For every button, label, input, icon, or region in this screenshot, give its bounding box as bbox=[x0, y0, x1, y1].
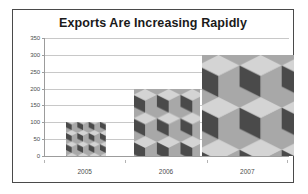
bar-2005 bbox=[66, 122, 106, 156]
x-axis-tickmark bbox=[44, 160, 45, 163]
x-axis-tickmark bbox=[207, 160, 208, 163]
bar-series bbox=[45, 38, 289, 156]
y-axis-tick-label: 150 bbox=[30, 102, 40, 108]
x-axis-tickmark bbox=[125, 160, 126, 163]
x-axis-tick-label: 2007 bbox=[240, 168, 254, 175]
x-axis-tick-label: 2006 bbox=[159, 168, 173, 175]
chart-title: Exports Are Increasing Rapidly bbox=[13, 16, 293, 30]
y-axis-tick-label: 350 bbox=[30, 35, 40, 41]
y-axis-tickmark bbox=[42, 156, 45, 157]
plot-area bbox=[44, 38, 289, 157]
bar-2007 bbox=[202, 55, 294, 156]
y-axis-labels: 050100150200250300350 bbox=[13, 38, 43, 156]
y-axis-tick-label: 50 bbox=[34, 136, 40, 142]
x-axis-labels: 200520062007 bbox=[44, 160, 288, 180]
y-axis-tick-label: 300 bbox=[30, 52, 40, 58]
plot-wrapper: 050100150200250300350 200520062007 bbox=[13, 38, 295, 184]
x-axis-tick-label: 2005 bbox=[77, 168, 91, 175]
y-axis-tick-label: 100 bbox=[30, 119, 40, 125]
x-axis-tickmark bbox=[287, 160, 288, 163]
bar-2006 bbox=[134, 89, 200, 156]
y-axis-tick-label: 250 bbox=[30, 69, 40, 75]
chart-frame: Exports Are Increasing Rapidly 050100150… bbox=[12, 9, 294, 183]
y-axis-tick-label: 200 bbox=[30, 86, 40, 92]
y-axis-tick-label: 0 bbox=[37, 153, 40, 159]
